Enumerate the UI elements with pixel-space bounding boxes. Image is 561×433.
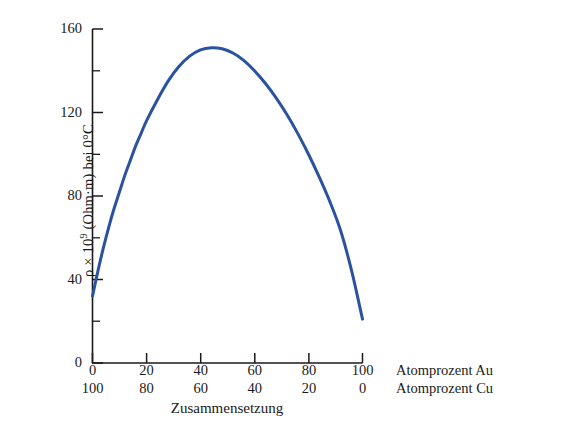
x-tick-label-cu-20: 20 (286, 381, 332, 396)
x-tick-label-cu-60: 60 (178, 381, 224, 396)
x-tick-label-cu-80: 80 (124, 381, 170, 396)
x-tick-label-cu-100: 100 (70, 381, 116, 396)
x-tick-label-cu-40: 40 (232, 381, 278, 396)
y-tick-label-160: 160 (48, 21, 82, 36)
x-axis-caption-cu: Atomprozent Cu (396, 381, 493, 396)
x-axis-title: Zusammensetzung (92, 400, 362, 417)
x-tick-label-au-80: 80 (286, 363, 332, 378)
x-tick-label-au-60: 60 (232, 363, 278, 378)
x-axis-caption-au: Atomprozent Au (396, 363, 493, 378)
y-major-ticks (93, 29, 104, 363)
x-tick-label-au-40: 40 (178, 363, 224, 378)
x-tick-label-au-100: 100 (340, 363, 386, 378)
x-major-ticks (93, 353, 363, 363)
x-tick-label-cu-0: 0 (340, 381, 386, 396)
y-tick-label-40: 40 (48, 272, 82, 287)
resistivity-curve (93, 48, 363, 319)
y-tick-label-120: 120 (48, 105, 82, 120)
chart-figure: ρ × 109 (Ohm·m) bei 0°C (0, 0, 561, 433)
x-tick-label-au-20: 20 (124, 363, 170, 378)
y-tick-label-80: 80 (48, 188, 82, 203)
x-tick-label-au-0: 0 (70, 363, 116, 378)
